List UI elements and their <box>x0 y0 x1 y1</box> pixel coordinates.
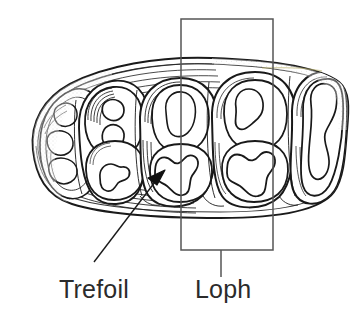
label-loph: Loph <box>195 277 251 302</box>
figure-canvas: Trefoil Loph <box>0 0 363 329</box>
enamel-island <box>102 100 124 121</box>
tooth-illustration <box>0 0 363 329</box>
loph-4-highlighted <box>212 72 296 207</box>
tooth-occlusal-surface <box>33 58 349 218</box>
loph-2 <box>79 81 149 204</box>
label-trefoil: Trefoil <box>59 277 129 302</box>
